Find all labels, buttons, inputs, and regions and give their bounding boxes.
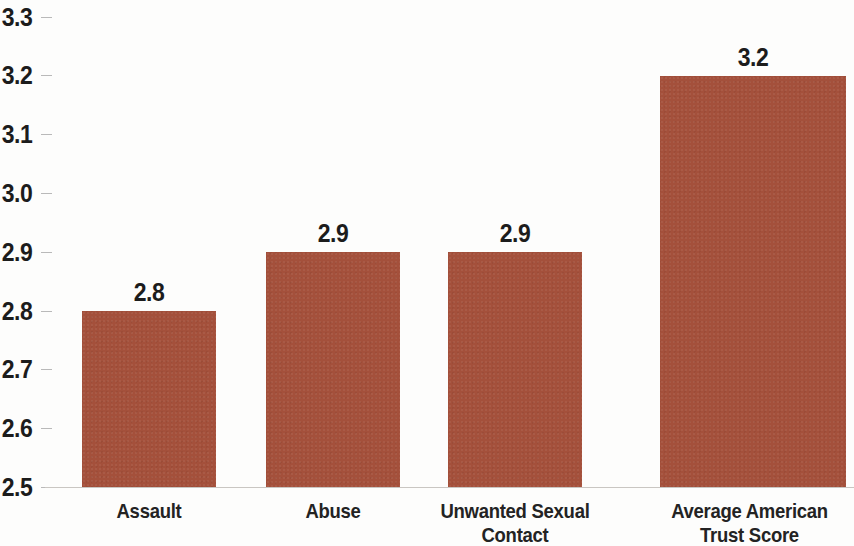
x-axis-label-line: Contact: [431, 523, 598, 546]
x-axis-label-line: Average American: [658, 499, 842, 523]
bar-average-american-trust-score: [660, 76, 846, 488]
x-axis-baseline: [45, 487, 854, 488]
x-axis-label-unwanted-sexual-contact: Unwanted Sexual Contact: [431, 499, 598, 546]
x-axis-label-assault: Assault: [81, 499, 217, 523]
x-axis-label-line: Unwanted Sexual: [431, 499, 598, 523]
bar-value-label: 2.9: [271, 221, 394, 246]
x-axis-label-line: Assault: [81, 499, 217, 523]
x-axis-label-line: Abuse: [265, 499, 401, 523]
x-axis-label-average-american-trust-score: Average American Trust Score: [658, 499, 842, 546]
bar-chart: 3.3 3.2 3.1 3.0 2.9 2.8 2.7 2.6: [0, 0, 854, 546]
x-axis-label-line: Trust Score: [658, 523, 842, 546]
bar-value-label: 3.2: [667, 45, 838, 70]
plot-area: 2.8 2.9 2.9 3.2: [0, 0, 854, 546]
bar-unwanted-sexual-contact: [448, 252, 582, 487]
bar-value-label: 2.8: [87, 280, 210, 305]
x-axis-label-abuse: Abuse: [265, 499, 401, 523]
bar-abuse: [266, 252, 400, 487]
bar-value-label: 2.9: [453, 221, 576, 246]
bar-assault: [82, 311, 216, 487]
